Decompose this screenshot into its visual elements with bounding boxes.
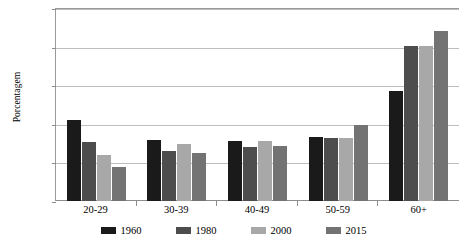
bar [162,151,176,201]
bar [97,155,111,201]
bar [309,137,323,201]
x-axis-tick-label: 50-59 [297,203,378,216]
bar [354,125,368,201]
bar-group [137,9,218,201]
bar [147,140,161,201]
x-axis-tick-labels: 20-2930-3940-4950-5960+ [55,203,459,216]
bar-group [217,9,298,201]
bar [434,31,448,201]
bar-groups [56,9,459,201]
legend-swatch-icon [326,227,341,234]
bar-group [378,9,459,201]
bar [228,141,242,201]
x-axis-tick-label: 40-49 [217,203,298,216]
legend-item[interactable]: 1960 [101,225,142,236]
bar [273,146,287,201]
legend-item[interactable]: 1980 [176,225,217,236]
bar [258,141,272,201]
bar [177,144,191,202]
legend-item[interactable]: 2015 [326,225,367,236]
legend-label: 2000 [271,225,292,236]
x-axis-tick-label: 20-29 [55,203,136,216]
bar-chart: Porcentagem 01020304050 20-2930-3940-495… [0,0,467,249]
bar [404,46,418,201]
legend-swatch-icon [101,227,116,234]
bar [339,138,353,201]
bar [243,147,257,201]
legend-label: 1960 [121,225,142,236]
bar [67,120,81,201]
bar [82,142,96,201]
bar-group [56,9,137,201]
legend: 1960198020002015 [0,225,467,236]
x-axis-tick-label: 60+ [378,203,459,216]
legend-item[interactable]: 2000 [251,225,292,236]
bar-group [298,9,379,201]
legend-label: 2015 [346,225,367,236]
bar [324,138,338,201]
legend-swatch-icon [251,227,266,234]
bar [112,167,126,201]
bar [389,91,403,201]
x-axis-tick-label: 30-39 [136,203,217,216]
legend-label: 1980 [196,225,217,236]
y-axis-title: Porcentagem [12,47,22,147]
plot-area: 01020304050 [55,8,459,201]
bar [419,46,433,201]
legend-swatch-icon [176,227,191,234]
bar [192,153,206,201]
